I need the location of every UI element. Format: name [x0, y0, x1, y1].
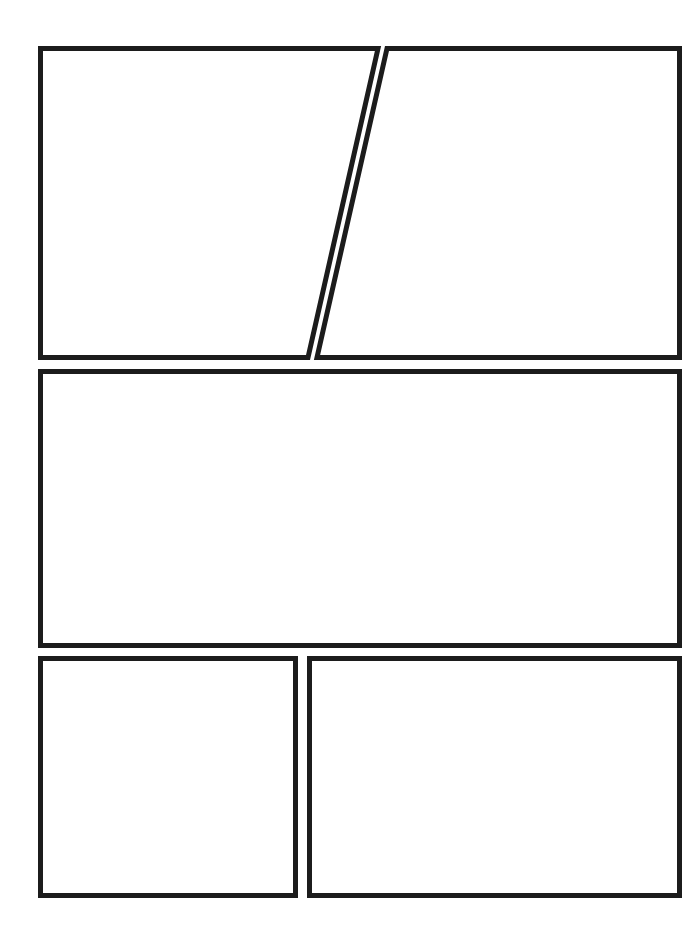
comic-page: [0, 0, 698, 933]
panel-bottom-left[interactable]: [41, 659, 296, 896]
panel-middle-wide[interactable]: [41, 372, 680, 646]
comic-page-canvas: [0, 0, 698, 933]
panel-bottom-right[interactable]: [310, 659, 680, 896]
